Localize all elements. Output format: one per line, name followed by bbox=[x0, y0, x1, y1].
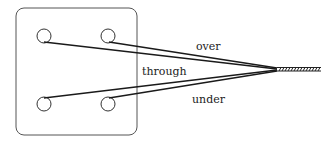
twisted-rope-icon bbox=[277, 68, 321, 72]
hole-top-right-icon bbox=[101, 29, 115, 43]
hole-top-left-icon bbox=[37, 29, 51, 43]
wire-top-right bbox=[109, 42, 277, 68]
label-through: through bbox=[142, 65, 187, 78]
panel-box bbox=[16, 8, 137, 135]
hole-bottom-right-icon bbox=[101, 97, 115, 111]
label-over: over bbox=[196, 40, 221, 53]
wiring-diagram: over through under bbox=[0, 0, 334, 141]
hole-bottom-left-icon bbox=[37, 97, 51, 111]
terminal-holes bbox=[37, 29, 115, 111]
label-under: under bbox=[192, 93, 226, 106]
